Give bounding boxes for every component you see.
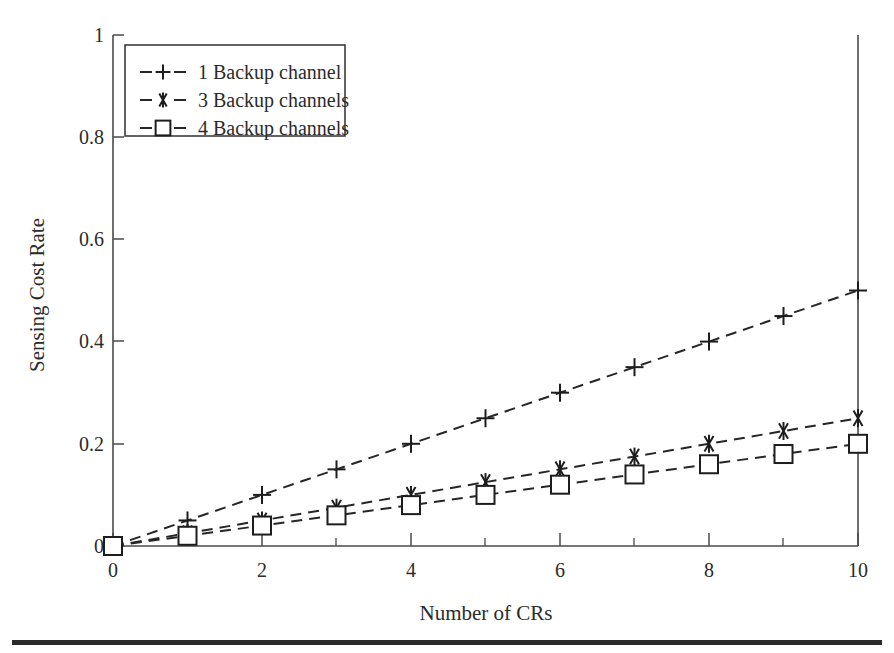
- y-tick-label: 0.4: [79, 330, 104, 352]
- x-tick-label: 8: [704, 559, 714, 581]
- figure-container: 1 0.8 0.6 0.4 0.2 0 0 2 4 6 8: [0, 0, 894, 653]
- marker-square: [551, 476, 569, 494]
- marker-square: [179, 527, 197, 545]
- legend-label: 1 Backup channel: [198, 61, 342, 84]
- marker-square: [626, 465, 644, 483]
- marker-square: [402, 496, 420, 514]
- legend-label: 3 Backup channels: [198, 89, 349, 112]
- sensing-cost-rate-chart: 1 0.8 0.6 0.4 0.2 0 0 2 4 6 8: [0, 0, 894, 653]
- marker-square: [104, 537, 122, 555]
- x-axis-title: Number of CRs: [420, 601, 553, 625]
- marker-square: [477, 486, 495, 504]
- marker-square: [700, 455, 718, 473]
- legend-label: 4 Backup channels: [198, 117, 349, 140]
- y-tick-label: 0.8: [79, 126, 104, 148]
- x-tick-label: 6: [555, 559, 565, 581]
- marker-square: [328, 506, 346, 524]
- marker-square: [849, 435, 867, 453]
- x-tick-label: 2: [257, 559, 267, 581]
- page-separator-rule: [12, 640, 882, 645]
- y-axis-title: Sensing Cost Rate: [25, 218, 49, 372]
- y-tick-label: 0.6: [79, 228, 104, 250]
- legend: 1 Backup channel3 Backup channels4 Backu…: [125, 45, 349, 140]
- x-tick-label: 0: [108, 559, 118, 581]
- x-tick-label: 4: [406, 559, 416, 581]
- x-tick-label: 10: [848, 559, 868, 581]
- y-tick-label: 1: [94, 24, 104, 46]
- marker-square: [253, 517, 271, 535]
- marker-square: [156, 121, 171, 136]
- marker-square: [775, 445, 793, 463]
- y-tick-label: 0.2: [79, 433, 104, 455]
- y-tick-label: 0: [94, 535, 104, 557]
